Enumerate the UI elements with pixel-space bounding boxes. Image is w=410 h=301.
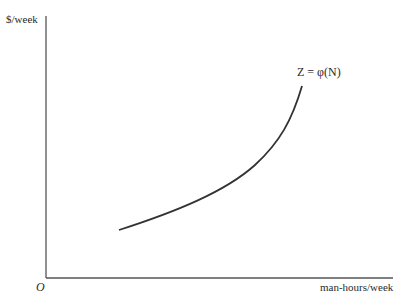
cost-curve xyxy=(119,86,302,230)
x-axis-label: man-hours/week xyxy=(320,281,393,293)
diagram-canvas xyxy=(0,0,410,301)
origin-label: O xyxy=(36,280,45,295)
diagram: $/week man-hours/week O Z = φ(N) xyxy=(0,0,410,301)
curve-label: Z = φ(N) xyxy=(297,65,341,80)
y-axis-label: $/week xyxy=(6,13,38,25)
